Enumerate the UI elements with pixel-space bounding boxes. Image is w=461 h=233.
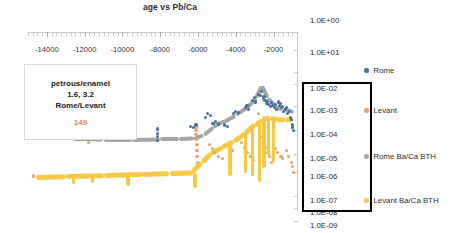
x-axis-tick-label: -4000 (226, 45, 245, 54)
data-point (87, 141, 90, 144)
legend-marker-icon (364, 154, 369, 159)
x-axis-tick (141, 32, 142, 36)
data-point (281, 157, 284, 160)
x-axis-tick (132, 32, 133, 36)
legend-item-label: Levant (374, 106, 397, 116)
legend-item-label: Rome (374, 66, 395, 76)
legend-item-label: Rome Ba/Ca BTH (374, 152, 436, 162)
x-axis-tick (42, 32, 43, 36)
y-axis-tick (294, 50, 298, 51)
data-point (254, 100, 257, 103)
x-axis-tick (52, 32, 53, 36)
x-axis-tick (155, 32, 156, 36)
trend-line-segment (141, 171, 169, 177)
legend-item-levant[interactable]: Levant (364, 106, 397, 116)
data-point (217, 122, 220, 125)
x-axis-tick (56, 32, 57, 36)
x-axis-tick (288, 32, 289, 36)
x-axis-tick (28, 32, 29, 36)
data-drip-stroke (91, 175, 94, 183)
data-point (288, 110, 291, 113)
y-axis-highlight-box (302, 82, 372, 212)
data-point (32, 174, 35, 177)
data-point (211, 147, 214, 150)
data-point (285, 149, 288, 152)
x-axis-tick (127, 32, 128, 36)
x-axis-tick (174, 32, 175, 36)
x-axis-tick (189, 32, 190, 36)
x-axis-tick (104, 32, 105, 36)
data-point (204, 116, 207, 119)
callout-line-3: Rome/Levant (55, 100, 105, 111)
x-axis-tick (245, 32, 246, 36)
x-axis-tick (146, 32, 147, 36)
legend-marker-icon (364, 108, 369, 113)
callout-line-2: 1.6, 3.2 (67, 89, 94, 100)
trend-line-segment (170, 170, 193, 175)
data-drip-stroke (267, 119, 270, 157)
x-axis-tick (75, 32, 76, 36)
x-axis-tick (198, 32, 199, 37)
data-point (247, 108, 250, 111)
trend-line-segment (160, 137, 179, 141)
trend-line-segment (35, 174, 65, 179)
data-point (156, 127, 159, 130)
x-axis-tick-label: -8000 (150, 45, 169, 54)
x-axis-tick (94, 32, 95, 36)
y-axis-tick (294, 221, 298, 222)
x-axis-tick (207, 32, 208, 36)
y-axis-tick (294, 196, 298, 197)
data-point (208, 143, 211, 146)
y-axis-tick (294, 208, 298, 209)
data-point (217, 155, 220, 158)
data-point (195, 143, 198, 146)
x-axis-tick (37, 32, 38, 36)
x-axis-tick (278, 32, 279, 36)
x-axis-tick (240, 32, 241, 36)
x-axis-tick (151, 32, 152, 36)
x-axis-tick (203, 32, 204, 36)
x-axis-tick (99, 32, 100, 36)
y-axis-tick (294, 72, 298, 73)
x-axis-tick (108, 32, 109, 36)
x-axis-tick (274, 32, 275, 37)
x-axis-tick (212, 32, 213, 36)
data-point (226, 125, 229, 128)
data-point (231, 149, 234, 152)
x-axis-tick (137, 32, 138, 36)
y-axis-tick-label: 1.0E-09 (310, 221, 337, 230)
x-axis-tick (80, 32, 81, 36)
data-point (257, 112, 260, 115)
x-axis-tick (179, 32, 180, 36)
legend-item-rome-ba-ca-bth[interactable]: Rome Ba/Ca BTH (364, 152, 436, 162)
x-axis-tick-label: -14000 (35, 45, 59, 54)
y-axis-line (297, 32, 298, 212)
legend-item-rome[interactable]: Rome (364, 66, 394, 76)
x-axis-tick (47, 32, 48, 37)
data-point (209, 114, 212, 117)
x-axis-tick (269, 32, 270, 36)
x-axis-tick-label: -2000 (264, 45, 283, 54)
x-axis-tick (184, 32, 185, 36)
data-point (195, 126, 198, 129)
data-point (287, 155, 290, 158)
data-point (156, 139, 159, 142)
data-point (292, 171, 295, 174)
x-axis-tick (71, 32, 72, 36)
x-axis-tick (297, 32, 298, 36)
data-drip-stroke (251, 125, 254, 176)
data-point (194, 138, 197, 141)
legend-item-label: Levant Ba/Ca BTH (374, 196, 439, 206)
x-axis-tick (283, 32, 284, 36)
data-drip-stroke (72, 176, 75, 184)
data-point (290, 161, 293, 164)
x-axis-tick (66, 32, 67, 36)
x-axis-tick (231, 32, 232, 36)
trend-line-segment (223, 114, 236, 124)
y-axis-tick-label: 1.0E+01 (310, 48, 339, 57)
x-axis-tick-label: -12000 (73, 45, 97, 54)
legend-item-levant-ba-ca-bth[interactable]: Levant Ba/Ca BTH (364, 196, 439, 206)
x-axis-tick (85, 32, 86, 37)
data-point (292, 129, 295, 132)
x-axis-tick (259, 32, 260, 36)
